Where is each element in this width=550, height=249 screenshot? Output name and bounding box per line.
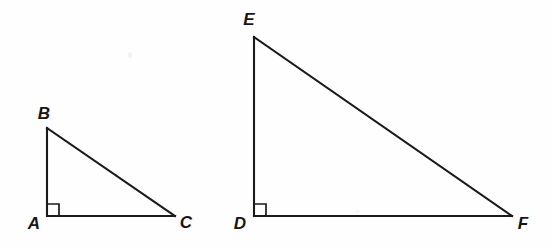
vertex-label-e: E: [243, 10, 255, 29]
triangle-def: [254, 37, 512, 216]
geometry-figure-canvas: A B C D E F: [0, 0, 550, 249]
vertex-label-a: A: [27, 214, 40, 233]
vertex-label-b: B: [38, 104, 50, 123]
triangles-svg: A B C D E F: [0, 0, 550, 249]
edge-ef: [254, 37, 512, 216]
vertex-label-f: F: [518, 214, 529, 233]
edge-bc: [47, 128, 175, 216]
right-angle-marker-d: [254, 204, 266, 216]
vertex-label-d: D: [234, 214, 246, 233]
right-angle-marker-a: [47, 204, 59, 216]
triangle-abc: [47, 128, 175, 216]
vertex-label-c: C: [180, 213, 193, 232]
